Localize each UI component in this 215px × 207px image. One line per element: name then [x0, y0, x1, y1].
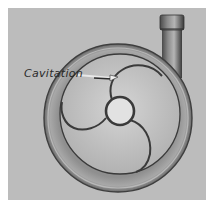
- impeller-hub: [106, 97, 134, 125]
- pump-diagram: [0, 0, 215, 207]
- cavitation-label: Cavitation: [24, 67, 83, 80]
- pump-illustration: Cavitation: [0, 0, 215, 207]
